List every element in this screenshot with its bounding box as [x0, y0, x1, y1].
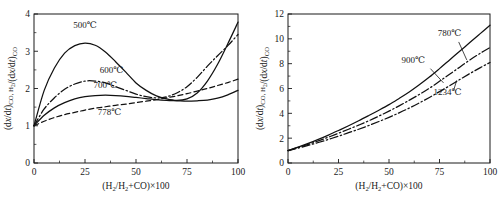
y-tick-label: 10: [275, 34, 285, 44]
figure-container: 025507510001234500℃600℃700℃778℃(H2/H2+CO…: [0, 0, 502, 205]
x-tick-label: 0: [286, 167, 291, 177]
x-tick-label: 75: [435, 167, 445, 177]
chart-panel-right: 0255075100024681012780℃900℃1234℃(H2/H2+C…: [251, 0, 502, 205]
y-tick-label: 6: [279, 84, 284, 94]
series-label-900C: 900℃: [401, 55, 425, 65]
x-tick-label: 50: [131, 167, 141, 177]
y-tick-label: 8: [279, 59, 284, 69]
y-tick-label: 2: [25, 84, 30, 94]
series-label-780C: 780℃: [438, 28, 462, 38]
x-tick-label: 0: [32, 167, 37, 177]
chart-panel-left: 025507510001234500℃600℃700℃778℃(H2/H2+CO…: [0, 0, 251, 205]
y-axis-title: (dx/dt)CO, H2/(dx/dt)CO: [255, 47, 270, 130]
curve-500C: [34, 22, 238, 126]
curve-900C: [288, 48, 490, 151]
series-label-700C: 700℃: [94, 80, 118, 90]
chart-svg-right: 0255075100024681012780℃900℃1234℃(H2/H2+C…: [251, 0, 502, 205]
x-axis-title: (H2/H2+CO)×100: [355, 181, 423, 192]
x-tick-label: 25: [334, 167, 344, 177]
curve-700C: [34, 90, 238, 125]
x-tick-label: 25: [80, 167, 90, 177]
x-tick-label: 50: [384, 167, 394, 177]
y-tick-label: 0: [25, 158, 30, 168]
chart-svg-left: 025507510001234500℃600℃700℃778℃(H2/H2+CO…: [0, 0, 251, 205]
y-tick-label: 1: [25, 121, 30, 131]
y-tick-label: 0: [279, 158, 284, 168]
series-label-600C: 600℃: [100, 65, 124, 75]
x-tick-label: 100: [231, 167, 246, 177]
y-tick-label: 3: [25, 47, 30, 57]
y-tick-label: 12: [275, 9, 285, 19]
y-axis-title: (dx/dt)CO, H2/(dx/dt)CO: [3, 47, 18, 130]
series-label-778C: 778℃: [98, 107, 122, 117]
x-tick-label: 75: [182, 167, 192, 177]
series-label-1234C: 1234℃: [434, 87, 462, 97]
curve-1234C: [288, 62, 490, 150]
y-tick-label: 4: [279, 109, 284, 119]
y-axis-title-text: (dx/dt)CO, H2/(dx/dt)CO: [3, 47, 18, 130]
y-tick-label: 4: [25, 9, 30, 19]
series-label-500C: 500℃: [73, 20, 97, 30]
y-axis-title-text: (dx/dt)CO, H2/(dx/dt)CO: [255, 47, 270, 130]
y-tick-label: 2: [279, 134, 284, 144]
x-axis-title: (H2/H2+CO)×100: [102, 181, 170, 192]
x-tick-label: 100: [483, 167, 498, 177]
